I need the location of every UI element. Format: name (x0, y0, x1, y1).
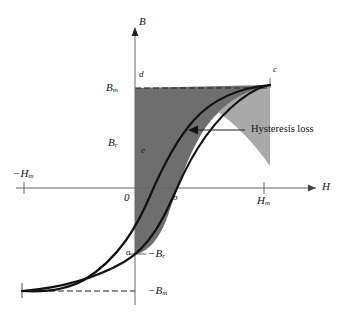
point-b-label: b (173, 193, 178, 202)
hysteresis-loop-plot (0, 0, 351, 321)
h-axis-label: H (322, 181, 330, 192)
hysteresis-loss-annotation: Hysteresis loss (251, 124, 314, 135)
neg-bm-label: −Bm (148, 285, 167, 297)
origin-label: 0 (124, 192, 130, 203)
hysteresis-loop-figure: B H 0 Bm Br −Br −Bm Hm −Hm a b c d e Hys… (0, 0, 351, 321)
b-axis-arrowhead (132, 27, 139, 36)
point-d-label: d (139, 70, 144, 79)
bm-label: Bm (106, 82, 118, 94)
hm-label: Hm (257, 195, 270, 207)
point-a-label: a (126, 248, 131, 257)
point-c-label: c (273, 65, 277, 74)
b-axis-label: B (139, 16, 146, 27)
neg-br-label: −Br (148, 248, 165, 260)
neg-hm-label: −Hm (13, 168, 33, 180)
br-label: Br (108, 137, 117, 149)
point-e-label: e (141, 146, 145, 155)
h-axis-arrowhead (308, 185, 316, 192)
